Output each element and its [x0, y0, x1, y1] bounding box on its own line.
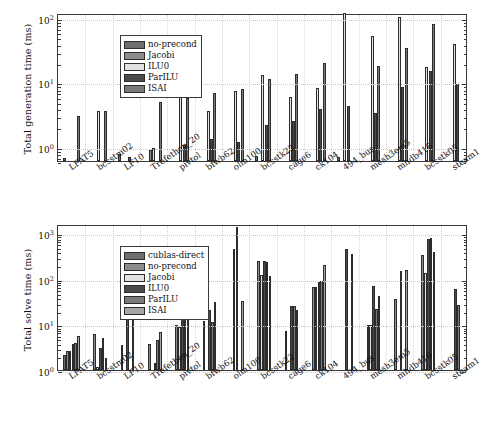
legend-item[interactable]: no-precond [124, 261, 204, 272]
y-minor-tick [58, 345, 61, 346]
bar-group [413, 15, 440, 161]
bar [241, 89, 244, 161]
legend-item[interactable]: Jacobi [124, 272, 204, 283]
group-separator [359, 226, 360, 370]
y-minor-tick [464, 340, 467, 341]
bar-group [359, 15, 386, 161]
y-minor-tick [58, 285, 61, 286]
y-tick-mark [58, 372, 62, 373]
legend-label: Jacobi [148, 51, 175, 60]
legend-item[interactable]: ILU0 [124, 61, 197, 72]
bar-group [58, 226, 85, 370]
legend-swatch [124, 74, 145, 82]
y-minor-tick [58, 155, 61, 156]
y-minor-tick [464, 350, 467, 351]
y-minor-tick [58, 129, 61, 130]
y-minor-tick [58, 104, 61, 105]
bar [378, 296, 381, 370]
y-tick-mark [462, 281, 466, 282]
y-tick-mark [462, 20, 466, 21]
y-minor-tick [464, 259, 467, 260]
y-tick-label: 103 [38, 229, 54, 241]
group-separator [222, 15, 223, 161]
bar [351, 254, 354, 370]
y-minor-tick [58, 26, 61, 27]
legend-item[interactable]: ISAI [124, 83, 197, 94]
y-minor-tick [58, 163, 61, 164]
bar-group [331, 226, 358, 370]
y-minor-tick [58, 54, 61, 55]
y-tick-mark [462, 326, 466, 327]
y-minor-tick [58, 87, 61, 88]
y-minor-tick [58, 333, 61, 334]
y-minor-tick [58, 34, 61, 35]
bar [323, 63, 326, 161]
legend-label: ISAI [148, 306, 167, 315]
legend-item[interactable]: ILU0 [124, 283, 204, 294]
y-minor-tick [464, 129, 467, 130]
bar [97, 111, 100, 161]
bar-group [249, 226, 276, 370]
y-minor-tick [58, 91, 61, 92]
legend-item[interactable]: no-precond [124, 39, 197, 50]
bar [347, 106, 350, 161]
y-minor-tick [464, 99, 467, 100]
legend-label: ILU0 [148, 284, 169, 293]
bar [296, 310, 299, 370]
y-minor-tick [58, 350, 61, 351]
y-minor-tick [58, 110, 61, 111]
legend-swatch [124, 52, 145, 60]
bar-group [386, 226, 413, 370]
bar-group [222, 226, 249, 370]
y-minor-tick [58, 305, 61, 306]
bar-group [304, 15, 331, 161]
legend-label: ParILU [148, 295, 178, 304]
group-separator [249, 226, 250, 370]
y-minor-tick [464, 291, 467, 292]
y-minor-tick [58, 65, 61, 66]
y-minor-tick [464, 240, 467, 241]
y-minor-tick [464, 331, 467, 332]
y-minor-tick [464, 337, 467, 338]
y-tick-mark [462, 235, 466, 236]
y-minor-tick [464, 34, 467, 35]
group-separator [222, 226, 223, 370]
y-minor-tick [464, 91, 467, 92]
y-tick-mark [58, 149, 62, 150]
y-tick-label: 100 [38, 366, 54, 378]
y-minor-tick [58, 259, 61, 260]
legend-item[interactable]: ParILU [124, 72, 197, 83]
y-minor-tick [464, 87, 467, 88]
y-tick-mark [58, 84, 62, 85]
group-separator [277, 226, 278, 370]
y-axis-label-container-bottom: Total solve time (ms) [4, 225, 18, 375]
y-minor-tick [464, 65, 467, 66]
group-separator [249, 15, 250, 161]
y-tick-mark [58, 326, 62, 327]
y-minor-tick [464, 245, 467, 246]
legend-item[interactable]: ISAI [124, 305, 204, 316]
bar-group [359, 226, 386, 370]
bar-group [304, 226, 331, 370]
bar [269, 276, 272, 370]
y-tick-label: 102 [38, 14, 54, 26]
legend-item[interactable]: ParILU [124, 294, 204, 305]
y-tick-label: 101 [38, 78, 54, 90]
y-minor-tick [58, 267, 61, 268]
y-minor-tick [58, 291, 61, 292]
bar-group [413, 226, 440, 370]
legend-swatch [124, 263, 145, 271]
group-separator [441, 15, 442, 161]
y-axis-label-generation: Total generation time (ms) [22, 14, 33, 164]
legend-item[interactable]: cublas-direct [124, 250, 204, 261]
legend-item[interactable]: Jacobi [124, 50, 197, 61]
gridline [58, 235, 466, 236]
y-minor-tick [464, 118, 467, 119]
y-minor-tick [464, 313, 467, 314]
y-minor-tick [58, 340, 61, 341]
legend-swatch [124, 307, 145, 315]
group-separator [359, 15, 360, 161]
y-tick-mark [58, 235, 62, 236]
legend-label: cublas-direct [148, 251, 204, 260]
